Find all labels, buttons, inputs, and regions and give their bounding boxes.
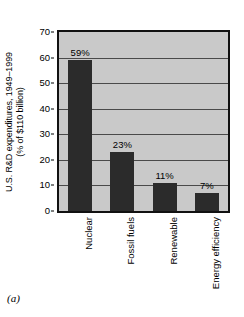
y-axis-tickmark-30 (51, 134, 54, 135)
y-axis-tickmark-40 (51, 108, 54, 109)
bar-fossil-fuels (110, 152, 134, 211)
y-axis-tickmark-20 (51, 159, 54, 160)
y-axis-tick-50: 50 (39, 78, 50, 88)
x-axis-category-labels: NuclearFossil fuelsRenewableEnergy effic… (57, 215, 230, 310)
bar-energy-efficiency (195, 193, 219, 211)
bar-renewable (153, 183, 177, 211)
bar-value-label-energy-efficiency: 7% (200, 181, 214, 191)
plot-area: 59%23%11%7% (57, 30, 230, 213)
y-axis-title: U.S. R&D expenditures, 1949–1999 (% of $… (2, 30, 28, 213)
plot-inner: 59%23%11%7% (59, 32, 228, 211)
y-axis-tickmark-0 (51, 211, 54, 212)
bar-value-label-nuclear: 59% (71, 48, 90, 58)
y-axis-tickmark-60 (51, 57, 54, 58)
y-axis-tick-0: 0 (45, 206, 50, 216)
bar-nuclear (68, 60, 92, 211)
y-axis-tick-40: 40 (39, 104, 50, 114)
y-axis-title-line1: U.S. R&D expenditures, 1949–1999 (4, 52, 14, 192)
y-axis-tick-labels: 010203040506070 (28, 30, 54, 213)
y-axis-tickmark-50 (51, 83, 54, 84)
y-axis-tickmark-10 (51, 185, 54, 186)
x-axis-label-renewable: Renewable (169, 217, 179, 265)
figure-caption: (a) (7, 292, 20, 304)
bar-value-label-fossil-fuels: 23% (113, 140, 132, 150)
y-axis-tick-70: 70 (39, 27, 50, 37)
y-axis-tick-10: 10 (39, 180, 50, 190)
x-axis-label-nuclear: Nuclear (84, 217, 94, 250)
x-axis-label-fossil-fuels: Fossil fuels (126, 217, 136, 265)
y-axis-tick-60: 60 (39, 53, 50, 63)
bar-value-label-renewable: 11% (155, 171, 173, 181)
y-axis-tick-30: 30 (39, 129, 50, 139)
x-axis-label-energy-efficiency: Energy efficiency (211, 217, 221, 289)
y-axis-tickmark-70 (51, 32, 54, 33)
y-axis-tick-20: 20 (39, 155, 50, 165)
y-axis-title-line2: (% of $110 billion) (15, 87, 25, 156)
